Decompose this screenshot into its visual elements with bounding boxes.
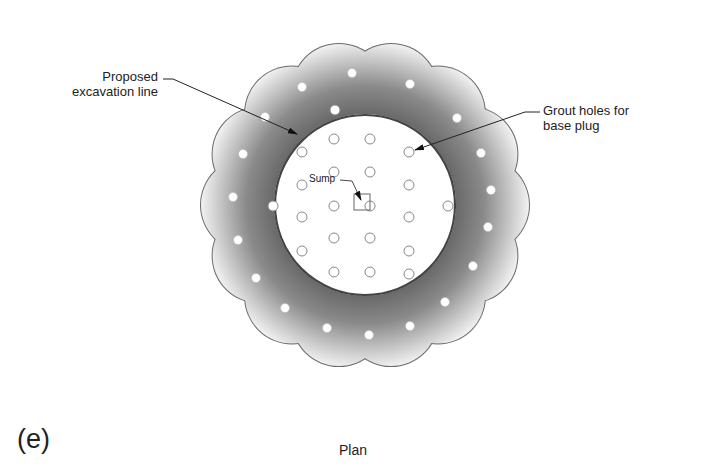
base-plug-grout-hole: [404, 246, 414, 256]
base-plug-grout-hole: [365, 134, 375, 144]
base-plug-grout-hole: [329, 233, 339, 243]
base-plug-grout-hole: [297, 147, 307, 157]
grout-hole: [229, 193, 238, 202]
base-plug-grout-hole: [329, 267, 339, 277]
excavation-label-line1: Proposed: [40, 70, 158, 85]
grout-hole: [234, 236, 243, 245]
grout-hole: [252, 274, 261, 283]
base-plug-grout-hole: [365, 233, 375, 243]
grout-hole: [406, 80, 415, 89]
figure-caption: Plan: [339, 442, 367, 458]
grout-hole: [477, 149, 486, 158]
grout-hole: [298, 83, 307, 92]
excavation-line-label: Proposed excavation line: [40, 70, 158, 100]
grout-hole: [487, 186, 496, 195]
panel-letter: (e): [17, 424, 50, 455]
grout-hole: [469, 262, 478, 271]
base-plug-grout-hole: [330, 105, 340, 115]
base-plug-grout-hole: [365, 267, 375, 277]
grout-holes-label-line1: Grout holes for: [543, 104, 693, 119]
base-plug-grout-hole: [365, 167, 375, 177]
grout-hole: [323, 324, 332, 333]
grout-hole: [365, 331, 374, 340]
grout-hole: [453, 114, 462, 123]
base-plug-grout-hole: [329, 134, 339, 144]
excavation-label-line2: excavation line: [40, 85, 158, 100]
base-plug-grout-hole: [404, 269, 414, 279]
grout-hole: [441, 298, 450, 307]
sump-label: Sump: [309, 173, 335, 185]
grout-hole: [406, 322, 415, 331]
base-plug-grout-hole: [404, 147, 414, 157]
grout-holes-label-line2: base plug: [543, 119, 693, 134]
grout-hole: [484, 223, 493, 232]
base-plug-grout-hole: [404, 180, 414, 190]
base-plug-grout-hole: [297, 180, 307, 190]
grout-hole: [348, 69, 357, 78]
base-plug-grout-hole: [329, 201, 339, 211]
grout-hole: [239, 150, 248, 159]
base-plug-grout-hole: [297, 212, 307, 222]
base-plug-grout-hole: [404, 212, 414, 222]
base-plug-grout-hole: [297, 246, 307, 256]
grout-hole: [281, 304, 290, 313]
plan-figure: Proposed excavation line Grout holes for…: [0, 0, 710, 476]
base-plug-grout-hole: [268, 201, 278, 211]
grout-holes-label: Grout holes for base plug: [543, 104, 693, 134]
base-plug-grout-hole: [443, 201, 453, 211]
